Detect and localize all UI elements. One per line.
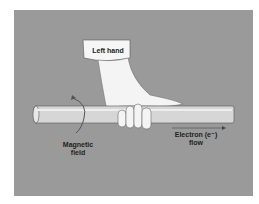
magnetic-field-label: Magnetic field [55,141,101,157]
left-hand-label: Left hand [90,47,126,55]
hand-icon [98,58,183,107]
electron-flow-label: Electron (e⁻) flow [165,131,227,147]
left-hand-rule-illustration [0,0,259,204]
